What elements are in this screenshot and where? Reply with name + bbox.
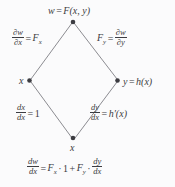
fraction-denominator: dx bbox=[27, 166, 39, 176]
fraction-numerator: ∂w bbox=[12, 28, 24, 37]
fraction-numerator: dw bbox=[27, 157, 39, 166]
edge-bottom-right-equals: = bbox=[100, 109, 109, 119]
edge-label-bottom-right: dy dx =h′(x) bbox=[90, 105, 127, 124]
rhs-args: (x) bbox=[116, 108, 127, 119]
node-dot-left bbox=[27, 78, 32, 83]
fraction-numerator: dy bbox=[90, 103, 100, 112]
partial-w-partial-y-fraction: ∂w ∂y bbox=[115, 28, 127, 47]
node-dot-bottom bbox=[71, 136, 76, 141]
node-right-equals: = bbox=[127, 77, 136, 87]
dx-dx-fraction: dx dx bbox=[16, 103, 26, 122]
fraction-denominator: dx bbox=[16, 112, 26, 122]
edge-top-left-equals: = bbox=[24, 34, 33, 44]
node-label-top: w=F(x, y) bbox=[48, 5, 90, 16]
fraction-numerator: dx bbox=[16, 103, 26, 112]
node-dot-top bbox=[71, 20, 76, 25]
result-equation: dw dx =Fx·1+Fy· dy dx bbox=[27, 158, 102, 178]
dy-dx-fraction: dy dx bbox=[90, 103, 100, 122]
partial-w-partial-x-fraction: ∂w ∂x bbox=[12, 28, 24, 47]
fraction-denominator: dx bbox=[92, 166, 102, 176]
fraction-numerator: dy bbox=[92, 157, 102, 166]
edge-top-right-lhs: Fy bbox=[97, 33, 106, 46]
edge-bottom-left-equals: = bbox=[26, 109, 35, 119]
edge-top-right-equals: = bbox=[106, 34, 115, 44]
chain-rule-tree-diagram: w=F(x, y) ∂w ∂x =Fx Fy= ∂w ∂y x y=h(x) d… bbox=[0, 0, 175, 187]
edge-bottom-left-rhs: 1 bbox=[35, 109, 40, 119]
node-label-bottom: x bbox=[70, 143, 74, 153]
result-equals: = bbox=[39, 163, 48, 174]
fraction-numerator: ∂w bbox=[115, 28, 127, 37]
result-dy-dx-fraction: dy dx bbox=[92, 157, 102, 176]
result-term2: Fy bbox=[77, 162, 86, 175]
node-label-left: x bbox=[19, 76, 23, 86]
node-label-right: y=h(x) bbox=[123, 76, 152, 87]
edge-label-bottom-left: dx dx =1 bbox=[16, 105, 40, 124]
fraction-denominator: ∂y bbox=[115, 37, 127, 47]
node-top-variable: w bbox=[48, 6, 55, 16]
rhs-subscript: x bbox=[39, 38, 42, 45]
result-plus: + bbox=[68, 163, 77, 174]
edge-label-top-right: Fy= ∂w ∂y bbox=[97, 30, 127, 49]
node-right-args: (x) bbox=[141, 77, 152, 87]
node-top-args: (x, y) bbox=[69, 6, 90, 16]
edge-bottom-right-rhs: h′(x) bbox=[109, 109, 127, 119]
fraction-denominator: ∂x bbox=[12, 37, 24, 47]
fraction-denominator: dx bbox=[90, 112, 100, 122]
node-dot-right bbox=[115, 78, 120, 83]
edge-top-left-rhs: Fx bbox=[33, 33, 42, 46]
result-term1: Fx bbox=[48, 162, 57, 175]
dw-dx-fraction: dw dx bbox=[27, 157, 39, 176]
edge-label-top-left: ∂w ∂x =Fx bbox=[12, 30, 42, 49]
